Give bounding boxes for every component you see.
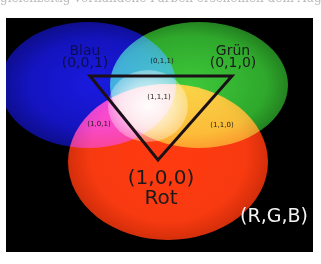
label-yellow-coords: (1,1,0)	[202, 121, 242, 129]
figure-title-rgb: (R,G,B)	[239, 204, 309, 226]
label-white-coords: (1,1,1)	[139, 93, 179, 101]
label-cyan-coords: (0,1,1)	[142, 57, 182, 65]
label-red-name: Rot	[116, 188, 206, 207]
caption-fragment: gleichzeitig vorhandene Farben erscheine…	[0, 0, 321, 5]
label-blue-coords: (0,0,1)	[50, 56, 120, 69]
label-magenta-coords: (1,0,1)	[79, 120, 119, 128]
rgb-additive-color-diagram: Blau (0,0,1) Grün (0,1,0) (1,0,0) Rot (0…	[6, 18, 313, 252]
label-green-coords: (0,1,0)	[203, 56, 263, 69]
